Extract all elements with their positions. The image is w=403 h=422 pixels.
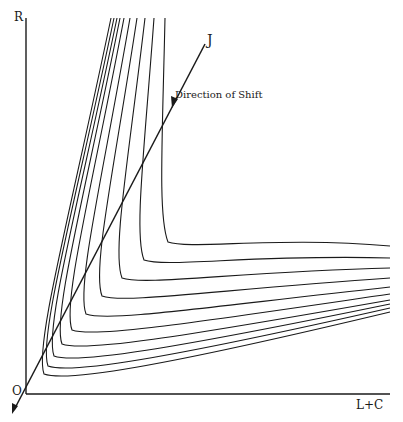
- iso-curves: [42, 18, 390, 376]
- y-axis-label: R: [14, 10, 23, 24]
- x-axis-label: L+C: [356, 398, 383, 412]
- iso-curve: [140, 18, 390, 263]
- origin-label: O: [12, 384, 22, 398]
- iso-curve: [42, 18, 390, 376]
- iso-curve: [162, 18, 390, 246]
- direction-of-shift-label: Direction of Shift: [175, 89, 262, 100]
- shift-diagram: [0, 0, 403, 422]
- iso-curve: [60, 18, 390, 346]
- iso-curve: [70, 18, 390, 332]
- line-j-label: J: [207, 32, 213, 48]
- iso-curve: [119, 18, 390, 280]
